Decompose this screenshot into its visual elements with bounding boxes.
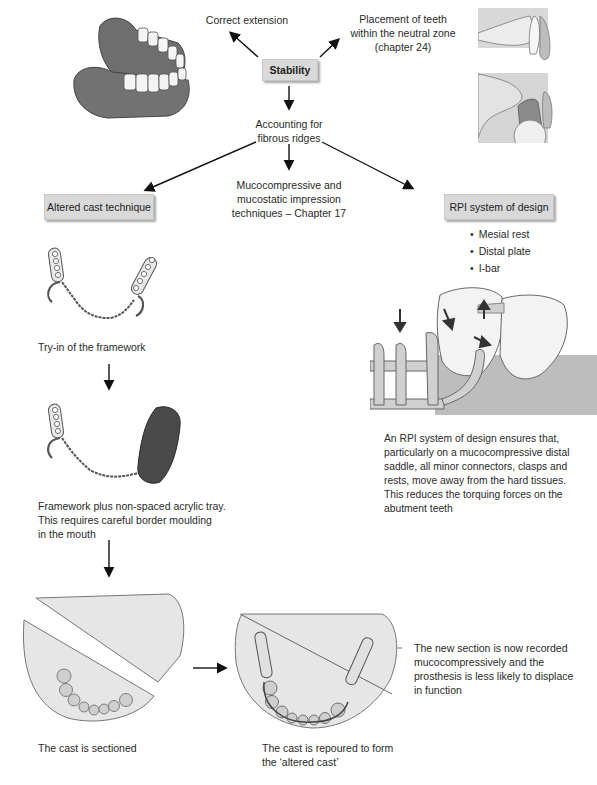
sectioned-cast-illustration (18, 586, 188, 726)
sectioned-caption: The cast is sectioned (38, 741, 137, 755)
bullet-mesial-rest: Mesial rest (470, 226, 531, 243)
rpi-desc-line-6: abutment teeth (384, 502, 569, 516)
rpi-design-illustration (370, 275, 597, 415)
neutral-zone-label: Placement of teeth within the neutral zo… (338, 12, 468, 54)
tryin-caption: Try-in of the framework (38, 340, 146, 354)
annotation-line-2: mucocompressively and the (414, 655, 573, 669)
neutral-zone-line-2: within the neutral zone (338, 26, 468, 40)
annotation-line-3: prosthesis is less likely to displace (414, 669, 573, 683)
annotation-line-4: in function (414, 683, 573, 697)
framework-tray-line-2: This requires careful border moulding (38, 513, 226, 527)
bullet-distal-plate: Distal plate (470, 243, 531, 260)
rpi-system-node: RPI system of design (444, 194, 554, 220)
framework-tray-caption: Framework plus non-spaced acrylic tray. … (38, 499, 226, 541)
rpi-desc-line-1: An RPI system of design ensures that, (384, 432, 569, 446)
complete-denture-illustration (68, 8, 198, 123)
rpi-desc-line-4: rests, move away from the hard tissues. (384, 474, 569, 488)
impression-line-3: techniques – Chapter 17 (229, 206, 349, 220)
repoured-caption: The cast is repoured to form the ‘altere… (262, 741, 393, 769)
framework-tryin-illustration (38, 246, 168, 336)
rpi-desc-line-5: This reduces the torquing forces on the (384, 488, 569, 502)
framework-with-tray-illustration (38, 400, 188, 495)
rpi-desc-line-3: saddle, all minor connectors, clasps and (384, 460, 569, 474)
neutral-zone-line-3: (chapter 24) (338, 40, 468, 54)
annotation-line-1: The new section is now recorded (414, 641, 573, 655)
fibrous-ridges-line-1: Accounting for (239, 117, 339, 131)
fibrous-ridges-label: Accounting for fibrous ridges (239, 117, 339, 145)
impression-line-2: mucostatic impression (229, 192, 349, 206)
fibrous-ridges-line-2: fibrous ridges (239, 131, 339, 145)
framework-tray-line-1: Framework plus non-spaced acrylic tray. (38, 499, 226, 513)
rpi-components-list: Mesial rest Distal plate I-bar (470, 226, 531, 277)
rpi-description: An RPI system of design ensures that, pa… (384, 432, 569, 516)
rpi-desc-line-2: particularly on a mucocompressive distal (384, 446, 569, 460)
altered-cast-illustration (232, 602, 402, 732)
framework-tray-line-3: in the mouth (38, 527, 226, 541)
repoured-line-2: the ‘altered cast’ (262, 755, 393, 769)
stability-node: Stability (262, 59, 318, 81)
impression-techniques-label: Mucocompressive and mucostatic impressio… (229, 178, 349, 220)
neutral-zone-line-1: Placement of teeth (338, 12, 468, 26)
repoured-line-1: The cast is repoured to form (262, 741, 393, 755)
neutral-zone-cross-sections (478, 8, 553, 143)
correct-extension-label: Correct extension (197, 13, 297, 27)
impression-line-1: Mucocompressive and (229, 178, 349, 192)
altered-cast-technique-node: Altered cast technique (44, 194, 154, 220)
new-section-annotation: The new section is now recorded mucocomp… (414, 641, 573, 697)
